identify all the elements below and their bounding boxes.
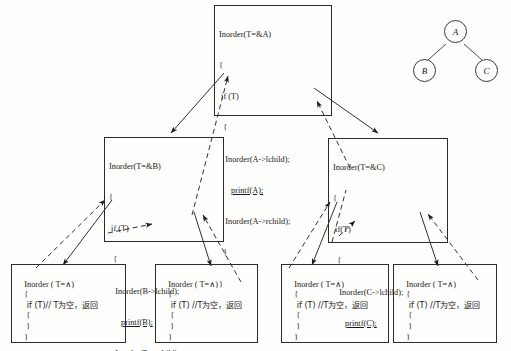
code-box-inorder-c[interactable]: Inorder(T=&C) { if(T) { Inorder(C->lchil…: [328, 138, 448, 243]
leaf-line: }: [24, 322, 30, 331]
leaf-line: {: [24, 311, 30, 320]
leaf-line: {: [24, 290, 28, 299]
leaf-box-null-1[interactable]: Inorder ( T=∧) { if (T)// T为空，返回 { } }: [11, 264, 126, 343]
leaf-comment: if (T)// T为空，返回: [24, 301, 98, 310]
tree-node-right[interactable]: C: [475, 59, 498, 82]
leaf-header: Inorder ( T=∧): [168, 280, 218, 289]
leaf-header: Inorder ( T=∧): [24, 280, 74, 289]
leaf-comment: if (T) //T为空，返回: [168, 301, 242, 310]
leaf-header: Inorder ( T=∧): [294, 280, 344, 289]
code-line: if(T): [333, 225, 443, 235]
code-box-inorder-a[interactable]: Inorder(T=&A) { if (T) { Inorder(A->lchi…: [214, 5, 332, 116]
code-line-call-left: Inorder(A->lchild);: [219, 155, 327, 165]
code-line: Inorder(T=&C): [333, 163, 443, 173]
code-line-call-right: Inorder(A->rchild);: [219, 217, 327, 227]
leaf-box-null-4[interactable]: Inorder ( T=∧) { if (T) //T为空，返回 { } }: [393, 264, 497, 343]
leaf-line: }: [168, 322, 174, 331]
leaf-line: }: [294, 322, 300, 331]
tree-node-left[interactable]: B: [413, 59, 436, 82]
leaf-line: {: [406, 311, 412, 320]
code-line: {: [219, 123, 327, 133]
code-line: Inorder(T=&A): [219, 30, 327, 40]
code-line: {: [333, 194, 443, 204]
binary-tree-diagram: A B C: [400, 14, 506, 94]
leaf-line: {: [294, 290, 298, 299]
arrow-return-leaf1-to-b: [36, 200, 105, 268]
leaf-line: }: [24, 333, 28, 342]
leaf-line: {: [406, 290, 410, 299]
code-box-inorder-b[interactable]: Inorder(T=&B) { if (T) { Inorder(B->lchi…: [104, 137, 224, 242]
leaf-box-null-3[interactable]: Inorder ( T=∧) { if (T) //T为空，返回 { } }: [281, 264, 389, 343]
code-line: if (T): [219, 92, 327, 102]
leaf-line: {: [294, 311, 300, 320]
tree-node-root[interactable]: A: [444, 20, 467, 43]
code-line-visit: printf(A);: [231, 186, 279, 196]
leaf-header: Inorder ( T=∧): [406, 280, 456, 289]
code-line: Inorder(T=&B): [109, 162, 219, 172]
leaf-line: }: [168, 333, 172, 342]
leaf-line: }: [406, 322, 412, 331]
code-line: if (T): [109, 224, 219, 234]
code-line: {: [109, 193, 219, 203]
code-line: }: [219, 248, 327, 258]
figure-canvas: Inorder(T=&A) { if (T) { Inorder(A->lchi…: [0, 0, 511, 351]
leaf-comment: if (T) //T为空，返回: [406, 301, 480, 310]
leaf-line: }: [406, 333, 410, 342]
code-line: {: [219, 61, 327, 71]
leaf-line: {: [168, 290, 172, 299]
leaf-line: }: [294, 333, 298, 342]
leaf-line: {: [168, 311, 174, 320]
leaf-box-null-2[interactable]: Inorder ( T=∧) { if (T) //T为空，返回 { } }: [155, 264, 258, 343]
leaf-comment: if (T) //T为空，返回: [294, 301, 368, 310]
